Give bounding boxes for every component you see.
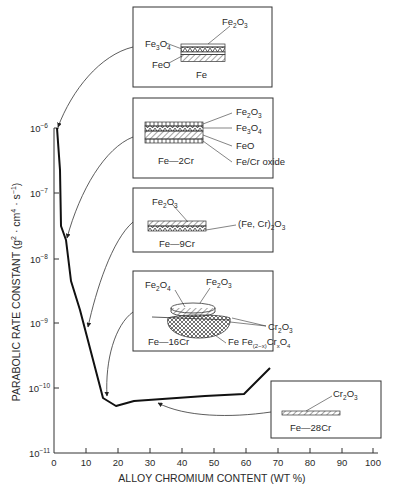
alloy-label-fe: Fe [196,69,207,80]
oxidation-rate-chart: 0 10 20 30 40 50 60 70 80 90 100 ALLOY C… [0,0,393,491]
y-tick-1e-11: 10−11 [29,447,51,459]
y-tick-1e-6: 10−6 [30,122,48,134]
x-tick-20: 20 [113,457,124,468]
label-fe-cr-oxide: Fe/Cr oxide [236,156,285,167]
x-axis-title: ALLOY CHROMIUM CONTENT (WT %) [118,472,305,484]
x-tick-90: 90 [337,457,348,468]
annotation-box-fe-2cr: Fe2O3 Fe3O4 FeO Fe/Cr oxide Fe—2Cr [133,98,285,178]
alloy-label-fe-28cr: Fe—28Cr [290,422,331,433]
y-axis-title: PARABOLIC RATE CONSTANT (g2 · cm4 · s−1) [10,183,22,402]
y-tick-1e-7: 10−7 [30,187,48,199]
x-tick-70: 70 [273,457,284,468]
x-tick-50: 50 [209,457,220,468]
arrow-fe-16cr [107,312,133,396]
alloy-label-fe-2cr: Fe—2Cr [158,155,194,166]
annotation-box-fe-28cr: Cr2O3 Fe—28Cr [271,381,381,438]
label-feo: FeO [236,140,254,151]
arrow-fe [58,47,133,127]
x-tick-0: 0 [51,457,56,468]
x-tick-30: 30 [145,457,156,468]
annotation-box-fe: Fe2O3 Fe3O4 FeO Fe [133,7,272,87]
arrow-fe-2cr [67,137,133,238]
label-feo: FeO [152,59,170,70]
alloy-label-fe-9cr: Fe—9Cr [159,238,195,249]
x-tick-100: 100 [365,457,381,468]
y-tick-labels: 10−6 10−7 10−8 10−9 10−10 10−11 [28,122,50,459]
y-tick-1e-9: 10−9 [30,317,48,329]
x-tick-80: 80 [305,457,316,468]
x-tick-10: 10 [81,457,92,468]
y-tick-1e-8: 10−8 [30,253,48,265]
x-tick-labels: 0 10 20 30 40 50 60 70 80 90 100 [51,457,381,468]
y-tick-1e-10: 10−10 [28,382,50,394]
x-tick-40: 40 [177,457,188,468]
annotation-box-fe-9cr: Fe2O3 (Fe, Cr)2O3 Fe—9Cr [133,188,286,252]
arrow-fe-9cr [88,222,133,327]
x-tick-60: 60 [241,457,252,468]
arrow-fe-28cr [158,403,271,415]
annotation-box-fe-16cr: Fe2O4 Fe2O3 Cr2O3 Fe Fe(2−x)CrxO4 Fe—16C… [133,271,293,351]
alloy-label-fe-16cr: Fe—16Cr [148,336,189,347]
